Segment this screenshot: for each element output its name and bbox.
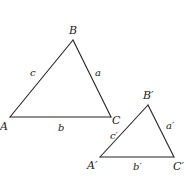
vertex-label-c: C xyxy=(112,114,121,127)
side-label-c: c xyxy=(30,67,36,78)
vertex-label-a: A xyxy=(0,120,8,133)
vertex-label-b: B xyxy=(68,24,77,37)
similar-triangles-diagram: A B C c a b A′ B′ C′ c′ a′ b′ xyxy=(0,0,186,187)
side-label-b-prime: b′ xyxy=(133,161,142,172)
side-label-a-prime: a′ xyxy=(166,120,175,131)
triangle-abc: A B C c a b xyxy=(0,24,121,133)
side-label-b: b xyxy=(58,122,64,133)
side-c-edge xyxy=(10,40,73,117)
side-a-prime-edge xyxy=(148,105,174,157)
vertex-label-b-prime: B′ xyxy=(142,89,154,102)
side-a-edge xyxy=(73,40,111,117)
triangle-a-prime-b-prime-c-prime: A′ B′ C′ c′ a′ b′ xyxy=(86,89,184,173)
vertex-label-a-prime: A′ xyxy=(86,159,98,172)
side-label-c-prime: c′ xyxy=(110,130,119,141)
vertex-label-c-prime: C′ xyxy=(173,160,184,173)
side-label-a: a xyxy=(95,67,101,78)
side-c-prime-edge xyxy=(100,105,148,157)
